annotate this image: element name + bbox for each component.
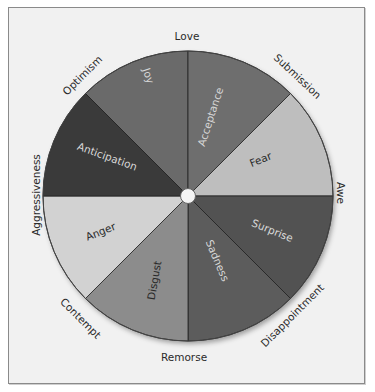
outer-label-remorse: Remorse — [161, 351, 207, 363]
outer-label-love: Love — [175, 30, 200, 42]
center-hub — [181, 189, 196, 204]
emotion-wheel: Joy Acceptance Fear Surprise Sadness Dis… — [0, 0, 375, 392]
outer-label-aggressiveness: Aggressiveness — [30, 154, 42, 236]
outer-label-awe: Awe — [335, 182, 347, 204]
